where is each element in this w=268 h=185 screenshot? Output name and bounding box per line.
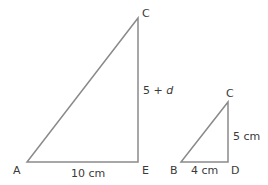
vertex-label-b: B (170, 164, 178, 177)
height-label-variable: d (166, 84, 174, 97)
height-label-small: 5 cm (233, 130, 260, 143)
vertex-label-d: D (231, 164, 239, 177)
large-triangle (27, 18, 138, 162)
similar-triangles-diagram: C A E 10 cm 5 + d C B D 4 cm 5 cm (0, 0, 268, 185)
base-label-large: 10 cm (71, 167, 105, 180)
height-label-large: 5 + d (143, 84, 174, 97)
vertex-label-e: E (142, 164, 149, 177)
vertex-label-c-small: C (226, 87, 234, 100)
height-label-prefix: 5 + (143, 84, 166, 97)
vertex-label-a: A (13, 164, 21, 177)
base-label-small: 4 cm (191, 164, 218, 177)
vertex-label-c-large: C (142, 7, 150, 20)
small-triangle (181, 102, 228, 162)
